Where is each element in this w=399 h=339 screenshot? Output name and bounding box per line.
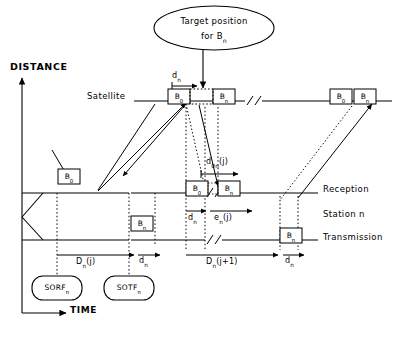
burst-label-recv-b0: B0: [193, 185, 202, 193]
node-label-sorf: SORFn: [44, 284, 69, 292]
transmission-timeline: [22, 217, 318, 244]
measure-label-dn-mid: dn: [139, 257, 148, 265]
transmission-label: Transmission: [323, 233, 383, 242]
measure-label-dn-right: dn: [285, 257, 294, 265]
reception-label: Reception: [323, 185, 369, 194]
measure-sub: n: [144, 262, 148, 268]
measure-label-en-j: en(j): [214, 214, 232, 222]
bubble-line2-text: for B: [201, 31, 223, 41]
measure-sub: 0n: [211, 163, 219, 169]
measure-sub: n: [212, 263, 216, 269]
measure-label-dn-top: dn: [172, 72, 181, 80]
burst-sub: n: [292, 237, 295, 243]
node-sub: n: [138, 289, 142, 295]
measure-label-Dn-j1: Dn(j+1): [206, 258, 238, 266]
bubble-line2: for Bn: [201, 32, 227, 41]
burst-sub: n: [230, 190, 233, 196]
burst-sub: 0: [198, 190, 201, 196]
burst-label-trans-bn-left: Bn: [138, 220, 147, 228]
burst-label-sat-b0: B0: [175, 93, 184, 101]
measure-arg: (j): [223, 213, 232, 222]
time-axis-label: TIME: [70, 306, 97, 315]
burst-label-sat-bn: Bn: [220, 93, 229, 101]
satellite-label: Satellite: [87, 92, 125, 101]
burst-label-recv-b0-left: B0: [65, 173, 74, 181]
uplink-arrow-left: [98, 103, 186, 191]
station-label: Station n: [323, 210, 365, 219]
burst-label-recv-bn: Bn: [225, 185, 234, 193]
node-label-sotf: SOTFn: [117, 284, 141, 292]
measure-sub: n: [177, 77, 181, 83]
burst-sub: n: [366, 98, 369, 104]
measure-arg: (j+1): [216, 257, 237, 266]
node-base: SOTF: [117, 283, 138, 292]
burst-sub: n: [143, 225, 146, 231]
measure-label-dn-recv: dn: [188, 214, 197, 222]
measure-sub: n: [219, 219, 223, 225]
measure-d0n-j: [201, 170, 238, 178]
downlink-arrow-mid: [123, 104, 186, 176]
burst-sub: 0: [180, 98, 183, 104]
burst-gap-span: [190, 89, 213, 104]
reception-timeline: [22, 188, 318, 217]
measure-arg: (j): [219, 157, 228, 166]
measure-sub: n: [82, 263, 86, 269]
burst-sub: n: [225, 98, 228, 104]
node-base: SORF: [44, 283, 65, 292]
bubble-line2-sub: n: [223, 37, 227, 44]
measure-label-Dn-j: Dn(j): [76, 258, 95, 266]
bubble-line1: Target position: [180, 17, 247, 26]
burst-label-sat-b0-right: B0: [337, 93, 346, 101]
burst-label-trans-bn: Bn: [287, 232, 296, 240]
diagram-canvas: DISTANCE TIME Target position for Bn Sat…: [0, 0, 399, 339]
burst-sub: 0: [70, 178, 73, 184]
measure-sub: n: [193, 219, 197, 225]
measure-label-d0n-j: d0n(j): [206, 158, 228, 166]
node-sub: n: [66, 289, 70, 295]
measure-arg: (j): [86, 257, 95, 266]
burst-label-sat-bn-right: Bn: [361, 93, 370, 101]
measure-sub: n: [290, 262, 294, 268]
distance-axis-label: DISTANCE: [10, 62, 68, 72]
burst-sub: 0: [342, 98, 345, 104]
